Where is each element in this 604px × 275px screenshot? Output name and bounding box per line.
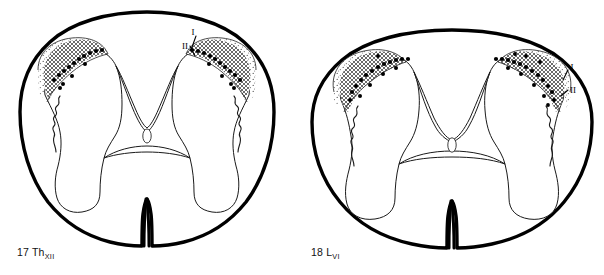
lamina-two-label-left-panel: II [182,41,188,51]
central-canal-right [448,138,456,152]
panel-caption-left: 17 ThXII [17,246,55,261]
lamina-two-label-right-panel: II [570,85,576,95]
spinal-cord-figure: I II [0,0,604,275]
panel-caption-left-subscript: XII [45,252,55,261]
lamina-one-label-right-panel: I [571,62,574,72]
central-canal-left [143,129,151,143]
panel-caption-left-main: 17 Th [17,246,45,258]
panel-caption-right: 18 LVI [311,246,340,261]
panel-caption-right-subscript: VI [332,252,340,261]
ventral-median-fissure-right-2 [449,201,451,248]
panel-17-th-xii: I II [20,12,274,246]
panel-caption-right-main: 18 L [311,246,332,258]
ventral-median-fissure-right [452,201,454,248]
panel-18-l-vi: I II [312,30,592,248]
figure-canvas: I II [0,0,604,275]
ventral-median-fissure-left [147,199,149,246]
ventral-median-fissure-left-2 [144,199,146,246]
lamina-one-label-left-panel: I [192,27,195,37]
